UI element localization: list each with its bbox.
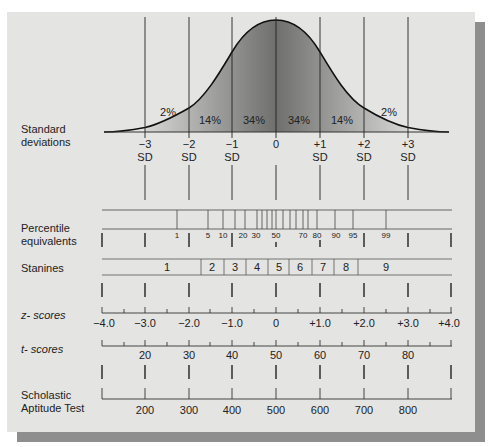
z-tick: −2.0 [178, 317, 200, 329]
stanine-1: 1 [164, 261, 170, 273]
stanine-4: 4 [254, 261, 260, 273]
label-percentile-equivalents: Percentile [21, 222, 70, 234]
t-tick: 80 [402, 349, 414, 361]
z-tick: +2.0 [353, 317, 375, 329]
sd-unit: SD [137, 151, 152, 163]
sd-tick-neg3: −3 [139, 138, 152, 150]
stanine-2: 2 [209, 261, 215, 273]
z-tick: −1.0 [221, 317, 243, 329]
pct-area-2: 14% [199, 114, 221, 126]
stanine-8: 8 [343, 261, 349, 273]
stanine-5: 5 [276, 261, 282, 273]
label-sat: Aptitude Test [21, 402, 84, 414]
z-score-axis [102, 307, 452, 313]
t-tick: 30 [183, 349, 195, 361]
sd-tick-pos2: +2 [358, 138, 371, 150]
stanine-7: 7 [320, 261, 326, 273]
pct-area-3: 34% [243, 114, 265, 126]
percentile-tick: 90 [332, 231, 341, 240]
sat-tick: 400 [223, 404, 241, 416]
label-standard-deviations: Standard [21, 123, 66, 135]
z-tick: +4.0 [438, 317, 460, 329]
label-stanines: Stanines [21, 262, 64, 274]
label-sat: Scholastic [21, 389, 72, 401]
percentile-tick: 20 [239, 231, 248, 240]
z-tick: 0 [273, 317, 279, 329]
sat-axis [102, 388, 452, 399]
z-tick: +3.0 [397, 317, 419, 329]
sd-unit: SD [312, 151, 327, 163]
percentile-tick: 99 [382, 231, 391, 240]
stanine-9: 9 [383, 261, 389, 273]
sd-tick-pos1: +1 [314, 138, 327, 150]
sat-tick: 700 [355, 404, 373, 416]
t-tick: 50 [270, 349, 282, 361]
sat-tick: 200 [136, 404, 154, 416]
t-score-axis [102, 340, 452, 346]
z-tick: −4.0 [93, 317, 115, 329]
z-tick: −3.0 [134, 317, 156, 329]
normal-curve-chart: 2% 14% 34% 34% 14% 2% −3 −2 −1 0 +1 +2 +… [0, 0, 489, 447]
label-standard-deviations: deviations [21, 136, 71, 148]
sd-tick-pos3: +3 [402, 138, 415, 150]
sat-tick: 500 [267, 404, 285, 416]
percentile-tick: 50 [272, 231, 281, 240]
sd-tick-neg2: −2 [183, 138, 196, 150]
pct-area-4: 34% [288, 114, 310, 126]
pct-area-6: 2% [381, 106, 397, 118]
pct-area-5: 14% [331, 114, 353, 126]
sd-unit: SD [181, 151, 196, 163]
percentile-tick: 1 [175, 231, 180, 240]
percentile-tick: 95 [349, 231, 358, 240]
label-percentile-equivalents: equivalents [21, 235, 77, 247]
t-tick: 40 [226, 349, 238, 361]
stanine-3: 3 [232, 261, 238, 273]
percentile-tick: 5 [206, 231, 211, 240]
sat-tick: 300 [180, 404, 198, 416]
sd-unit: SD [356, 151, 371, 163]
sat-tick: 800 [399, 404, 417, 416]
label-t-scores: t- scores [21, 343, 64, 355]
percentile-tick: 10 [219, 231, 228, 240]
sd-unit: SD [224, 151, 239, 163]
percentile-tick: 80 [313, 231, 322, 240]
sd-tick-0: 0 [273, 138, 279, 150]
stanine-6: 6 [297, 261, 303, 273]
sat-tick: 600 [311, 404, 329, 416]
sd-tick-neg1: −1 [226, 138, 239, 150]
label-z-scores: z- scores [20, 309, 66, 321]
pct-area-1: 2% [160, 106, 176, 118]
percentile-tick: 30 [252, 231, 261, 240]
sd-unit: SD [400, 151, 415, 163]
percentile-tick: 70 [299, 231, 308, 240]
percentile-bar [102, 210, 452, 229]
t-tick: 20 [139, 349, 151, 361]
t-tick: 70 [358, 349, 370, 361]
t-tick: 60 [314, 349, 326, 361]
z-tick: +1.0 [309, 317, 331, 329]
